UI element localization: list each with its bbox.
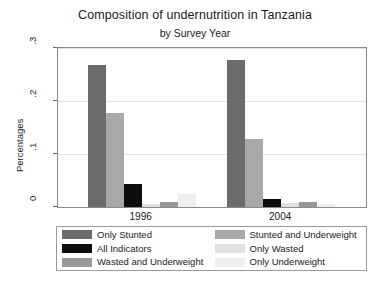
legend-swatch — [215, 258, 245, 267]
bar — [160, 202, 178, 207]
legend-label: Only Underweight — [250, 257, 326, 267]
legend-item[interactable]: All Indicators — [59, 244, 212, 254]
y-axis: Percentages 0.1.2.3 — [0, 0, 57, 283]
legend-swatch — [215, 230, 245, 239]
legend-swatch — [62, 244, 92, 253]
chart-subtitle: by Survey Year — [0, 27, 390, 39]
legend-swatch — [215, 244, 245, 253]
bar — [106, 113, 124, 207]
legend-label: Only Stunted — [97, 230, 152, 240]
bar — [281, 203, 299, 207]
legend-label: Stunted and Underweight — [250, 230, 357, 240]
bar — [178, 194, 196, 207]
chart-title: Composition of undernutrition in Tanzani… — [0, 8, 390, 22]
bar — [142, 204, 160, 207]
legend-item[interactable]: Wasted and Underweight — [59, 257, 212, 267]
legend-item[interactable]: Only Underweight — [212, 257, 365, 267]
legend-label: All Indicators — [97, 244, 151, 254]
bar — [263, 199, 281, 207]
y-tick-label: .1 — [28, 143, 38, 163]
legend-item[interactable]: Stunted and Underweight — [212, 230, 365, 240]
legend-swatch — [62, 258, 92, 267]
legend-item[interactable]: Only Stunted — [59, 230, 212, 240]
y-axis-title: Percentages — [14, 119, 25, 172]
gridline — [58, 48, 366, 49]
legend-item[interactable]: Only Wasted — [212, 244, 365, 254]
legend-swatch — [62, 230, 92, 239]
bar — [317, 204, 335, 207]
bar — [88, 65, 106, 207]
x-tick-label: 1996 — [111, 211, 171, 222]
legend-label: Wasted and Underweight — [97, 257, 203, 267]
y-tick-label: 0 — [28, 196, 38, 216]
chart-legend: Only StuntedAll IndicatorsWasted and Und… — [56, 226, 367, 271]
y-tick-label: .2 — [28, 90, 38, 110]
bar — [227, 60, 245, 207]
x-tick-label: 2004 — [250, 211, 310, 222]
bar — [245, 139, 263, 207]
bar — [124, 184, 142, 207]
legend-label: Only Wasted — [250, 244, 304, 254]
plot-area — [57, 47, 367, 208]
bar — [299, 202, 317, 207]
y-tick-label: .3 — [28, 37, 38, 57]
